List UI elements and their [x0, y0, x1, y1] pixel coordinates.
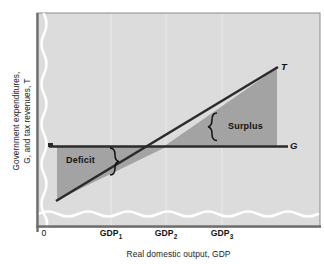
x-tick-gdp1: GDP1 — [100, 228, 123, 240]
t-line-label: T — [281, 61, 287, 72]
plot-background — [37, 13, 320, 227]
surplus-label: Surplus — [228, 121, 263, 131]
x-tick-gdp2: GDP2 — [155, 228, 178, 240]
x-tick-gdp3: GDP3 — [211, 228, 234, 240]
x-tick-gdp3-text: GDP — [211, 228, 230, 238]
y-axis-title: Government expenditures, G, and tax reve… — [11, 16, 33, 226]
x-tick-0-text: 0 — [42, 228, 47, 238]
figure-container: Government expenditures, G, and tax reve… — [0, 0, 324, 264]
x-tick-gdp3-sub: 3 — [230, 233, 234, 240]
chart-svg — [0, 0, 324, 264]
x-tick-gdp2-text: GDP — [155, 228, 174, 238]
x-axis-title: Real domestic output, GDP — [36, 249, 321, 259]
x-tick-gdp1-text: GDP — [100, 228, 119, 238]
x-tick-gdp2-sub: 2 — [174, 233, 178, 240]
x-tick-0: 0 — [42, 228, 47, 238]
g-intercept-marker — [48, 143, 53, 147]
g-line-label: G — [290, 140, 297, 151]
y-axis-title-line2: G, and tax revenues, T — [22, 16, 33, 226]
deficit-label: Deficit — [66, 155, 95, 165]
y-axis-title-line1: Government expenditures, — [12, 72, 21, 171]
x-tick-gdp1-sub: 1 — [119, 233, 123, 240]
